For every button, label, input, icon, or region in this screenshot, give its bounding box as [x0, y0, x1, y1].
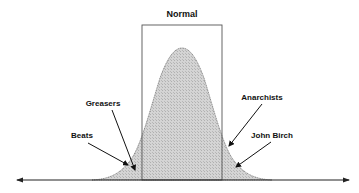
- normal-distribution-diagram: Normal Greasers Beats Anarchists John Bi…: [0, 0, 359, 193]
- label-beats: Beats: [71, 131, 93, 140]
- arrow-greasers: [112, 110, 135, 170]
- arrow-beats: [88, 143, 128, 165]
- diagram-title: Normal: [166, 9, 197, 19]
- arrow-john-birch: [236, 142, 271, 167]
- label-anarchists: Anarchists: [241, 93, 283, 102]
- label-john-birch: John Birch: [251, 131, 293, 140]
- label-greasers: Greasers: [86, 99, 121, 108]
